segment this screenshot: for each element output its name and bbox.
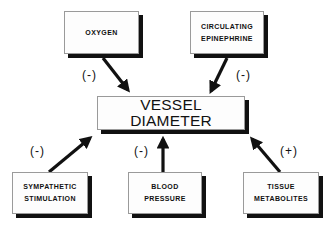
vessel-diameter-label: VESSEL DIAMETER: [98, 97, 244, 129]
box-oxygen: OXYGEN: [64, 11, 139, 54]
box-blood-pressure: BLOOD PRESSURE: [128, 172, 202, 214]
effect-sign-epinephrine: (-): [236, 68, 251, 82]
sympathetic-label-line-2: STIMULATION: [24, 193, 76, 205]
arrow-oxygen: [103, 58, 128, 90]
effect-sign-sympathetic: (-): [30, 144, 45, 158]
arrow-sympathetic: [49, 138, 90, 172]
epinephrine-label-line-2: EPINEPHRINE: [201, 33, 253, 45]
sympathetic-label-line-1: SYMPATHETIC: [23, 181, 77, 193]
tissue-label-line-2: METABOLITES: [254, 193, 308, 205]
effect-sign-tissue-metabolites: (+): [280, 144, 298, 158]
box-vessel-diameter: VESSEL DIAMETER: [97, 96, 245, 130]
box-tissue-metabolites: TISSUE METABOLITES: [243, 172, 319, 214]
epinephrine-label-line-1: CIRCULATING: [201, 21, 253, 33]
blood-pressure-label-line-1: BLOOD: [151, 181, 178, 193]
box-sympathetic-stimulation: SYMPATHETIC STIMULATION: [12, 172, 88, 214]
arrow-epinephrine: [211, 58, 227, 91]
effect-sign-oxygen: (-): [82, 68, 97, 82]
arrow-tissue-metabolites: [252, 139, 280, 172]
box-circulating-epinephrine: CIRCULATING EPINEPHRINE: [190, 11, 264, 54]
blood-pressure-label-line-2: PRESSURE: [144, 193, 186, 205]
tissue-label-line-1: TISSUE: [267, 181, 295, 193]
oxygen-label: OXYGEN: [85, 27, 117, 39]
effect-sign-blood-pressure: (-): [134, 144, 149, 158]
